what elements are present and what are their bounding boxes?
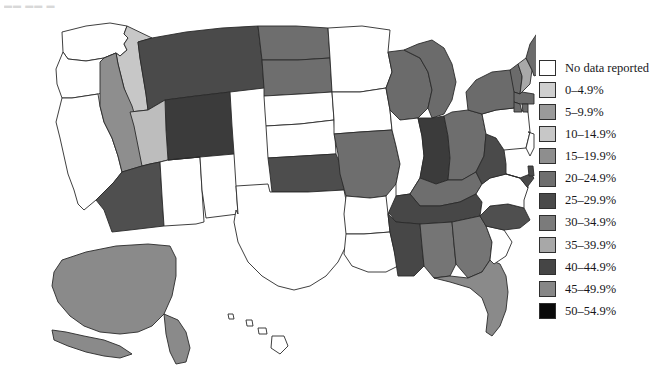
legend-swatch bbox=[539, 104, 556, 120]
state-hi bbox=[228, 314, 234, 319]
legend-swatch bbox=[539, 237, 556, 253]
state-wy bbox=[165, 92, 234, 160]
legend-row: 25–29.9% bbox=[536, 190, 671, 212]
legend-label: 25–29.9% bbox=[565, 194, 616, 207]
state-hi bbox=[258, 328, 267, 334]
state-ks bbox=[266, 120, 336, 158]
state-ar bbox=[344, 196, 390, 234]
legend-swatch bbox=[539, 215, 556, 231]
state-sd bbox=[262, 58, 332, 96]
legend-swatch bbox=[539, 148, 556, 164]
partial-title-fragment: ▬▬ ▬▬ ▬ bbox=[4, 1, 55, 10]
legend-row: 50–54.9% bbox=[536, 300, 671, 322]
legend-row: 5–9.9% bbox=[536, 101, 671, 123]
legend-label: No data reported bbox=[565, 62, 649, 75]
legend-label: 40–44.9% bbox=[565, 261, 616, 274]
state-hi bbox=[271, 336, 288, 354]
state-ri bbox=[522, 104, 528, 112]
legend-row: 0–4.9% bbox=[536, 79, 671, 101]
state-ia bbox=[332, 88, 392, 134]
state-ak bbox=[164, 314, 190, 364]
state-nm bbox=[160, 157, 204, 226]
state-ok bbox=[268, 154, 344, 192]
state-de bbox=[528, 166, 534, 176]
legend-row: 45–49.9% bbox=[536, 278, 671, 300]
legend-swatch bbox=[539, 281, 556, 297]
state-mn bbox=[328, 26, 392, 92]
state-al bbox=[420, 222, 456, 278]
state-hi bbox=[246, 320, 253, 326]
legend-label: 50–54.9% bbox=[565, 305, 616, 318]
us-map-svg bbox=[0, 14, 536, 374]
legend-row: 10–14.9% bbox=[536, 123, 671, 145]
legend-swatch bbox=[539, 193, 556, 209]
legend-label: 45–49.9% bbox=[565, 283, 616, 296]
state-tx bbox=[234, 184, 352, 290]
legend-label: 5–9.9% bbox=[565, 106, 604, 119]
legend-swatch bbox=[539, 303, 556, 319]
legend-swatch bbox=[539, 259, 556, 275]
legend-label: 35–39.9% bbox=[565, 239, 616, 252]
legend-label: 15–19.9% bbox=[565, 150, 616, 163]
state-mo bbox=[334, 130, 400, 198]
legend-label: 20–24.9% bbox=[565, 172, 616, 185]
legend-swatch bbox=[539, 60, 556, 76]
legend-row: 40–44.9% bbox=[536, 256, 671, 278]
legend-row: 15–19.9% bbox=[536, 145, 671, 167]
us-choropleth-map bbox=[0, 14, 536, 374]
legend-row: 35–39.9% bbox=[536, 234, 671, 256]
legend-row: No data reported bbox=[536, 57, 671, 79]
state-nd bbox=[258, 26, 330, 60]
legend-label: 10–14.9% bbox=[565, 128, 616, 141]
state-ak bbox=[52, 244, 176, 334]
legend-swatch bbox=[539, 126, 556, 142]
legend-label: 0–4.9% bbox=[565, 84, 604, 97]
choropleth-map-figure: ▬▬ ▬▬ ▬ No data reported0–4.9%5–9.9%10–1… bbox=[0, 0, 671, 383]
legend-row: 20–24.9% bbox=[536, 167, 671, 189]
map-legend: No data reported0–4.9%5–9.9%10–14.9%15–1… bbox=[536, 57, 671, 322]
state-ma bbox=[514, 92, 534, 104]
state-la bbox=[344, 232, 398, 272]
legend-swatch bbox=[539, 171, 556, 187]
legend-swatch bbox=[539, 82, 556, 98]
legend-label: 30–34.9% bbox=[565, 216, 616, 229]
legend-row: 30–34.9% bbox=[536, 212, 671, 234]
